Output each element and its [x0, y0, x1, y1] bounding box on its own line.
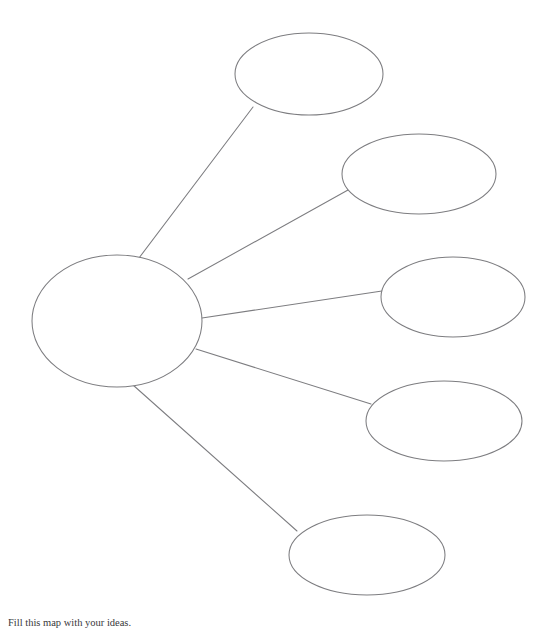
center-node-ellipse[interactable] — [32, 255, 202, 387]
branch-node-1-ellipse[interactable] — [235, 33, 383, 115]
branch-node-3-ellipse[interactable] — [381, 257, 525, 337]
branch-node-4-ellipse[interactable] — [366, 381, 522, 461]
connector-center-to-branch-4 — [196, 349, 371, 404]
connector-center-to-branch-3 — [202, 291, 382, 318]
branch-node-2-ellipse[interactable] — [342, 134, 496, 214]
concept-web-graphic — [0, 0, 553, 628]
diagram-canvas: Fill this map with your ideas. — [0, 0, 553, 628]
caption-text: Fill this map with your ideas. — [8, 617, 548, 628]
connector-center-to-branch-5 — [133, 385, 297, 531]
node-group — [32, 33, 525, 595]
connector-center-to-branch-2 — [188, 190, 348, 279]
branch-node-5-ellipse[interactable] — [289, 515, 445, 595]
connector-center-to-branch-1 — [139, 107, 253, 258]
